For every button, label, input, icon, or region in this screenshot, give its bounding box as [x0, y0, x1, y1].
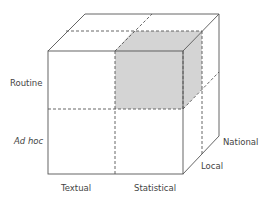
label-ad-hoc: Ad hoc — [14, 136, 43, 146]
highlighted-cell — [115, 31, 202, 109]
label-statistical: Statistical — [134, 183, 176, 193]
cube-diagram — [0, 0, 264, 205]
label-routine: Routine — [10, 78, 42, 88]
label-local: Local — [201, 161, 223, 171]
label-textual: Textual — [61, 183, 91, 193]
label-national: National — [223, 137, 258, 147]
